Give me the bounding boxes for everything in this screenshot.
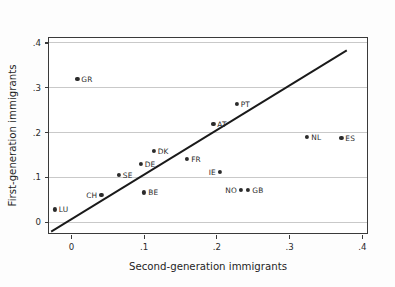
- point-label-gr: GR: [81, 75, 92, 84]
- x-tick-label-.2: .2: [213, 242, 221, 252]
- point-label-de: DE: [145, 160, 156, 169]
- point-label-fr: FR: [191, 154, 201, 163]
- point-label-gb: GB: [252, 185, 263, 194]
- point-label-at: AT: [217, 119, 226, 128]
- plot-area: GRPTATNLESDKFRDEIESENOGBCHBELU 0.1.2.3.4…: [48, 37, 368, 234]
- x-tick-label-.4: .4: [358, 242, 366, 252]
- x-tick-label-.1: .1: [140, 242, 148, 252]
- point-label-es: ES: [345, 133, 355, 142]
- y-tick-.3: .3: [45, 87, 49, 88]
- y-tick-label-.2: .2: [33, 128, 41, 138]
- x-tick-.1: .1: [144, 235, 145, 239]
- x-axis-title: Second-generation immigrants: [48, 261, 368, 272]
- y-tick-.4: .4: [45, 42, 49, 43]
- point-label-ch: CH: [86, 190, 97, 199]
- y-tick-.1: .1: [45, 177, 49, 178]
- point-label-dk: DK: [158, 146, 169, 155]
- point-label-se: SE: [123, 170, 133, 179]
- x-axis-title-text: Second-generation immigrants: [129, 261, 287, 272]
- point-label-be: BE: [148, 188, 158, 197]
- y-tick-label-.1: .1: [33, 172, 41, 182]
- x-tick-.2: .2: [216, 235, 217, 239]
- point-label-nl: NL: [311, 132, 321, 141]
- x-tick-label-0: 0: [69, 242, 74, 252]
- x-tick-label-.3: .3: [285, 242, 293, 252]
- y-tick-label-.3: .3: [33, 83, 41, 93]
- x-tick-.3: .3: [289, 235, 290, 239]
- point-label-pt: PT: [241, 99, 250, 108]
- point-label-ie: IE: [209, 167, 216, 176]
- y-tick-label-.4: .4: [33, 38, 41, 48]
- y-axis-title: First-generation immigrants: [6, 37, 20, 234]
- y-tick-.2: .2: [45, 132, 49, 133]
- x-tick-0: 0: [71, 235, 72, 239]
- point-label-no: NO: [225, 185, 237, 194]
- y-tick-0: 0: [45, 222, 49, 223]
- y-tick-label-0: 0: [36, 217, 41, 227]
- x-tick-.4: .4: [362, 235, 363, 239]
- scatter-plot-figure: First-generation immigrants GRPTATNLESDK…: [0, 0, 395, 287]
- point-label-lu: LU: [59, 205, 69, 214]
- y-axis-title-text: First-generation immigrants: [8, 65, 19, 207]
